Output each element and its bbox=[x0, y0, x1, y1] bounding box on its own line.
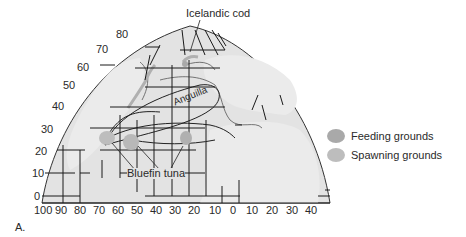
lon-label-40w: 40 bbox=[150, 205, 162, 216]
legend-label-feeding: Feeding grounds bbox=[351, 130, 434, 142]
label-icelandic-cod: Icelandic cod bbox=[186, 8, 250, 19]
lon-label-40e: 40 bbox=[305, 205, 317, 216]
lat-label-70: 70 bbox=[96, 44, 108, 55]
lat-label-10: 10 bbox=[32, 168, 44, 179]
lon-label-0: 0 bbox=[230, 205, 236, 216]
legend-label-spawning: Spawning grounds bbox=[351, 149, 442, 161]
feeding-grounds-swatch-icon bbox=[327, 129, 345, 143]
lat-label-40: 40 bbox=[52, 101, 64, 112]
lon-label-10e: 10 bbox=[246, 205, 258, 216]
legend-item-spawning: Spawning grounds bbox=[327, 148, 442, 162]
lat-label-0: 0 bbox=[34, 191, 40, 202]
legend-item-feeding: Feeding grounds bbox=[327, 129, 434, 143]
map-figure bbox=[0, 0, 466, 237]
lon-label-30e: 30 bbox=[286, 205, 298, 216]
lon-label-30w: 30 bbox=[169, 205, 181, 216]
cod-ground bbox=[182, 61, 188, 67]
feeding-ground-east bbox=[180, 131, 192, 145]
spawning-grounds-swatch-icon bbox=[327, 148, 345, 162]
lon-label-20w: 20 bbox=[188, 205, 200, 216]
lat-label-50: 50 bbox=[63, 80, 75, 91]
panel-label: A. bbox=[15, 222, 25, 233]
lon-label-20e: 20 bbox=[266, 205, 278, 216]
lon-label-90w: 90 bbox=[55, 205, 67, 216]
lon-label-70w: 70 bbox=[93, 205, 105, 216]
lon-label-100w: 100 bbox=[34, 205, 52, 216]
label-bluefin-tuna: Bluefin tuna bbox=[127, 168, 185, 179]
land-africa bbox=[200, 122, 320, 203]
lon-label-60w: 60 bbox=[112, 205, 124, 216]
lon-label-80w: 80 bbox=[74, 205, 86, 216]
lon-label-50w: 50 bbox=[131, 205, 143, 216]
spawning-ground-mid bbox=[123, 134, 139, 150]
lat-label-60: 60 bbox=[77, 62, 89, 73]
lat-label-30: 30 bbox=[41, 124, 53, 135]
lat-label-20: 20 bbox=[35, 146, 47, 157]
lon-label-10w: 10 bbox=[209, 205, 221, 216]
lat-label-80: 80 bbox=[116, 29, 128, 40]
spawning-ground-west bbox=[99, 131, 115, 145]
